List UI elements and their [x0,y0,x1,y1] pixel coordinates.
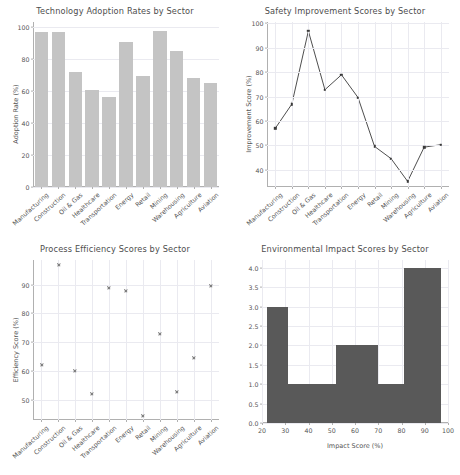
x-tick-mark [143,420,144,422]
data-point-healthcare [324,89,326,91]
gridline-vertical [75,260,76,420]
x-tick-mark [177,187,178,189]
x-tick-mark [275,187,276,189]
chart-title: Safety Improvement Scores by Sector [230,6,460,16]
y-axis-label: Adoption Rate (%) [12,74,20,154]
bar-construction [52,32,66,187]
x-tick-label: 40 [304,427,312,434]
data-point-retail [373,145,375,147]
x-tick-mark [375,187,376,189]
chart-panel-environmental-impact: Environmental Impact Scores by Sector 0.… [230,238,460,475]
x-axis-label: Impact Score (%) [262,442,448,450]
x-tick-label: 80 [397,427,405,434]
y-tick-label: 2.5 [248,322,258,329]
x-tick-mark [408,187,409,189]
x-tick-mark [341,187,342,189]
x-tick-mark [58,420,59,422]
x-tick-mark [177,420,178,422]
y-tick-mark [265,121,267,122]
y-tick-mark [31,123,33,124]
y-tick-label: 60 [21,87,29,94]
y-tick-label: 80 [255,69,263,76]
y-tick-label: 0 [25,184,29,191]
data-point-construction [291,103,293,105]
x-tick-mark [378,423,379,425]
histogram-bar-4 [378,384,404,423]
data-point-retail [141,414,145,418]
x-tick-mark [355,423,356,425]
bar-mining [153,31,167,187]
y-tick-label: 40 [255,166,263,173]
data-point-oil-gas [73,369,77,373]
data-point-agriculture [191,356,195,360]
gridline-vertical [126,260,127,420]
y-tick-label: 80 [21,55,29,62]
gridline-vertical [391,22,392,187]
chart-panel-technology-adoption: Technology Adoption Rates by Sector Adop… [0,0,230,237]
y-tick-mark [31,399,33,400]
y-axis-spine [33,22,34,187]
gridline-vertical [177,260,178,420]
plot-area: 020406080100ManufacturingConstructionOil… [33,22,219,187]
x-tick-mark [160,187,161,189]
gridline-vertical [109,260,110,420]
y-tick-label: 0.0 [248,420,258,427]
x-tick-label: Energy [114,424,135,444]
y-tick-label: 60 [21,367,29,374]
gridline-vertical [58,260,59,420]
bar-healthcare [85,90,99,187]
bar-transportation [102,97,116,188]
x-tick-label: 100 [442,427,454,434]
bar-oil-gas [69,72,83,187]
y-axis-label: Improvement Score (%) [245,69,253,159]
y-tick-label: 40 [21,119,29,126]
gridline-vertical [441,22,442,187]
bar-retail [136,76,150,187]
y-tick-label: 3.5 [248,284,258,291]
data-point-warehousing [406,180,408,182]
x-tick-label: 30 [281,427,289,434]
bar-agriculture [187,78,201,187]
x-tick-mark [126,187,127,189]
data-point-mining [158,332,162,336]
data-point-transportation [340,74,342,76]
x-tick-mark [391,187,392,189]
y-tick-mark [31,371,33,372]
x-tick-mark [285,423,286,425]
x-tick-mark [402,423,403,425]
data-point-energy [357,96,359,98]
y-tick-mark [265,145,267,146]
x-tick-label: Energy [114,191,135,211]
chart-title: Environmental Impact Scores by Sector [230,244,460,254]
data-point-aviation [208,283,212,287]
y-tick-label: 60 [255,118,263,125]
bar-warehousing [170,51,184,187]
x-tick-mark [194,420,195,422]
gridline-vertical [358,22,359,187]
gridline-vertical [262,260,263,423]
bar-aviation [204,83,218,187]
y-tick-mark [31,26,33,27]
y-tick-label: 1.5 [248,361,258,368]
x-tick-label: 50 [328,427,336,434]
y-tick-label: 100 [251,20,263,27]
y-tick-label: 0.5 [248,400,258,407]
x-tick-label: Energy [346,191,367,211]
x-tick-mark [126,420,127,422]
x-tick-mark [92,187,93,189]
gridline-vertical [194,260,195,420]
x-tick-mark [211,420,212,422]
y-tick-mark [31,58,33,59]
data-point-manufacturing [274,127,276,129]
gridline-vertical [325,22,326,187]
x-tick-mark [358,187,359,189]
x-tick-mark [92,420,93,422]
data-point-healthcare [90,392,94,396]
x-tick-mark [211,187,212,189]
chart-panel-safety-improvement: Safety Improvement Scores by Sector Impr… [230,0,460,237]
plot-area: 5060708090ManufacturingConstructionOil &… [33,260,219,420]
histogram-bar-1 [267,307,288,423]
y-tick-mark [31,342,33,343]
plot-area: 405060708090100ManufacturingConstruction… [267,22,449,187]
y-axis-label: Efficiency Score (%) [12,310,20,390]
